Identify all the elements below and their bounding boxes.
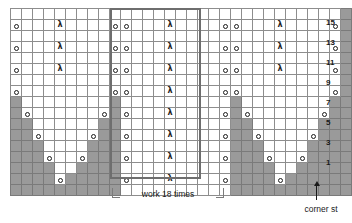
knit-cell bbox=[231, 53, 242, 64]
knit-cell bbox=[242, 20, 253, 31]
knit-cell bbox=[11, 31, 22, 42]
decrease-icon: λ bbox=[165, 64, 175, 74]
knit-cell bbox=[44, 108, 55, 119]
decrease-icon: λ bbox=[165, 86, 175, 96]
knit-cell bbox=[165, 97, 176, 108]
knit-cell bbox=[154, 163, 165, 174]
row-number-label: 3 bbox=[326, 138, 348, 148]
no-stitch-cell bbox=[231, 130, 242, 141]
yarn-over-icon bbox=[14, 24, 19, 29]
yarn-over-symbol bbox=[242, 108, 253, 119]
knit-cell bbox=[198, 152, 209, 163]
no-stitch-cell bbox=[11, 97, 22, 108]
row-number-label: 1 bbox=[326, 158, 348, 168]
knit-cell bbox=[286, 20, 297, 31]
decrease-symbol: λ bbox=[165, 42, 176, 53]
knit-cell bbox=[66, 141, 77, 152]
knit-cell bbox=[143, 9, 154, 20]
knit-cell bbox=[44, 20, 55, 31]
knit-cell bbox=[143, 163, 154, 174]
no-stitch-cell bbox=[22, 163, 33, 174]
knit-cell bbox=[176, 86, 187, 97]
knit-cell bbox=[66, 75, 77, 86]
knit-cell bbox=[99, 97, 110, 108]
knit-cell bbox=[154, 9, 165, 20]
knit-cell bbox=[33, 31, 44, 42]
knit-cell bbox=[55, 163, 66, 174]
no-stitch-cell bbox=[44, 185, 55, 196]
knit-cell bbox=[187, 75, 198, 86]
yarn-over-icon bbox=[113, 68, 118, 73]
knit-cell bbox=[143, 174, 154, 185]
knit-cell bbox=[275, 152, 286, 163]
knit-cell bbox=[44, 9, 55, 20]
knit-cell bbox=[44, 86, 55, 97]
knit-cell bbox=[154, 75, 165, 86]
knit-cell bbox=[22, 20, 33, 31]
knit-cell bbox=[209, 152, 220, 163]
no-stitch-cell bbox=[231, 97, 242, 108]
no-stitch-cell bbox=[11, 185, 22, 196]
knit-cell bbox=[88, 31, 99, 42]
yarn-over-icon bbox=[223, 178, 228, 183]
row-number-label: 5 bbox=[326, 118, 348, 128]
yarn-over-symbol bbox=[231, 64, 242, 75]
knit-cell bbox=[209, 75, 220, 86]
repeat-caption: work 18 times bbox=[112, 186, 224, 206]
knit-cell bbox=[110, 53, 121, 64]
knit-cell bbox=[165, 163, 176, 174]
yarn-over-icon bbox=[124, 68, 129, 73]
knit-cell bbox=[99, 31, 110, 42]
yarn-over-icon bbox=[124, 46, 129, 51]
yarn-over-icon bbox=[223, 68, 228, 73]
knit-cell bbox=[209, 130, 220, 141]
yarn-over-symbol bbox=[220, 130, 231, 141]
decrease-symbol: λ bbox=[275, 20, 286, 31]
corner-stitch-label: corner st bbox=[292, 204, 350, 214]
knit-cell bbox=[143, 97, 154, 108]
knit-cell bbox=[176, 152, 187, 163]
knit-cell bbox=[209, 119, 220, 130]
no-stitch-cell bbox=[11, 119, 22, 130]
knit-cell bbox=[44, 75, 55, 86]
yarn-over-symbol bbox=[231, 86, 242, 97]
knit-cell bbox=[209, 31, 220, 42]
knit-cell bbox=[132, 119, 143, 130]
yarn-over-icon bbox=[102, 112, 107, 117]
knit-cell bbox=[297, 119, 308, 130]
chart-row: λλλ bbox=[11, 64, 352, 75]
decrease-icon: λ bbox=[55, 64, 65, 74]
no-stitch-cell bbox=[242, 163, 253, 174]
yarn-over-symbol bbox=[110, 20, 121, 31]
no-stitch-cell bbox=[11, 108, 22, 119]
no-stitch-cell bbox=[231, 152, 242, 163]
knit-cell bbox=[44, 97, 55, 108]
repeat-caption-label: work 18 times bbox=[112, 189, 224, 199]
knit-cell bbox=[99, 53, 110, 64]
knit-cell bbox=[154, 20, 165, 31]
yarn-over-icon bbox=[124, 90, 129, 95]
row-number-label: 11 bbox=[326, 58, 348, 68]
yarn-over-icon bbox=[234, 46, 239, 51]
knit-cell bbox=[33, 86, 44, 97]
knit-cell bbox=[264, 42, 275, 53]
no-stitch-cell bbox=[11, 141, 22, 152]
knit-cell bbox=[132, 86, 143, 97]
knit-cell bbox=[77, 9, 88, 20]
knit-cell bbox=[253, 53, 264, 64]
knit-cell bbox=[66, 64, 77, 75]
knit-cell bbox=[187, 108, 198, 119]
knit-cell bbox=[33, 20, 44, 31]
knit-cell bbox=[143, 31, 154, 42]
chart-row bbox=[11, 53, 352, 64]
yarn-over-symbol bbox=[22, 108, 33, 119]
no-stitch-cell bbox=[99, 174, 110, 185]
knit-cell bbox=[22, 9, 33, 20]
knit-cell bbox=[110, 75, 121, 86]
knit-cell bbox=[297, 75, 308, 86]
knit-cell bbox=[198, 42, 209, 53]
knit-cell bbox=[55, 53, 66, 64]
knit-cell bbox=[286, 163, 297, 174]
knit-cell bbox=[253, 9, 264, 20]
knit-cell bbox=[264, 64, 275, 75]
